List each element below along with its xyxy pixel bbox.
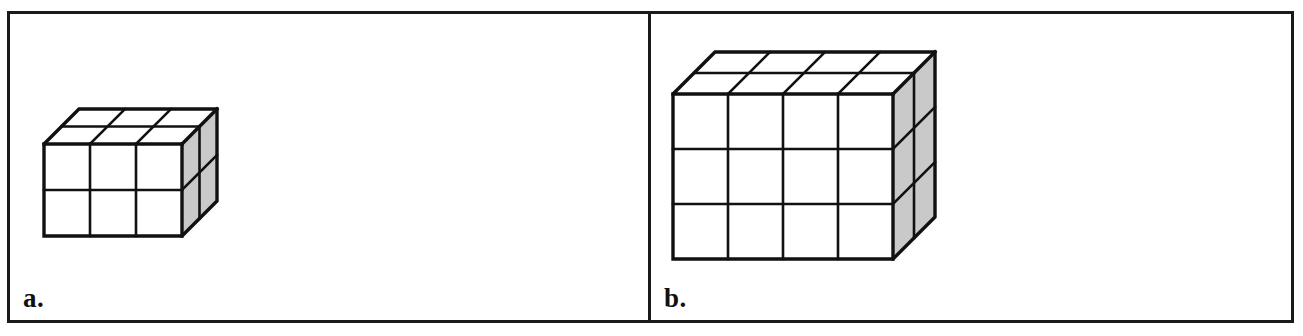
panel-label-a: a. [23, 285, 44, 312]
cube-diagram-b [659, 19, 969, 294]
panel-label-b: b. [664, 285, 687, 312]
cube-diagram-a [32, 74, 242, 249]
scan-artifact-text [940, 0, 1170, 3]
figure-root: a. b. [0, 0, 1303, 336]
figure-panel-a: a. [7, 11, 651, 323]
figure-panel-b: b. [648, 11, 1294, 323]
cube-b-svg [659, 19, 969, 294]
cube-a-svg [32, 74, 242, 249]
